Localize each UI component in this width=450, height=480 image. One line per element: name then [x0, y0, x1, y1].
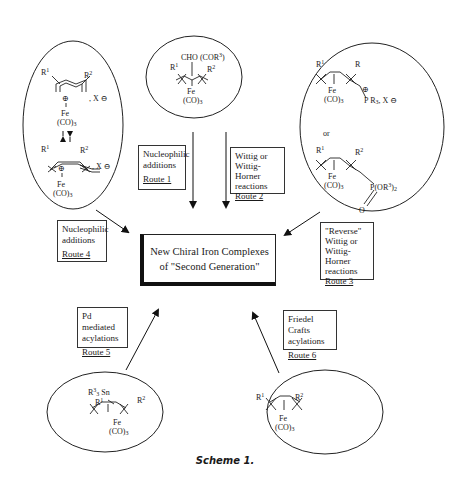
left-cation-charge-2: ⊕ [58, 164, 65, 173]
route-6-label: Route 6 [288, 350, 332, 361]
left-resonance-arrows [60, 131, 73, 142]
route-6-line-2: acylations [288, 336, 332, 347]
left-r2-label-2: R2 [80, 146, 88, 155]
route-4-label: Route 4 [62, 249, 102, 260]
right-fe-label-2: Fe [328, 172, 336, 181]
route-4-box: Nucleophilic additions Route 4 [57, 220, 107, 262]
route-5-box: Pd mediated acylations Route 5 [77, 307, 128, 348]
bottom-left-fe-label: Fe [113, 418, 121, 427]
route-5-line-2: acylations [82, 333, 123, 344]
right-r-label-1: R [355, 60, 360, 69]
left-co-label-2: (CO)3 [53, 189, 72, 198]
central-title-line-2: of "Second Generation" [144, 259, 275, 274]
left-r1-label-2: R1 [41, 145, 49, 154]
left-fe-label-2: Fe [57, 180, 65, 189]
route-3-box: "Reverse" Wittig or Wittig-Horner reacti… [320, 222, 374, 280]
left-co-label-1: (CO)3 [57, 118, 76, 127]
route-1-label: Route 1 [143, 174, 181, 185]
route-3-line-1: "Reverse" [325, 226, 369, 236]
top-co-label: (CO)3 [183, 96, 202, 105]
route-6-line-1: Friedel Crafts [288, 314, 332, 336]
top-reagent-ellipse [146, 36, 242, 118]
arrow-route-5 [126, 310, 158, 370]
left-fe-label-1: Fe [61, 109, 69, 118]
top-r1-label: R1 [170, 63, 178, 72]
route-1-line-2: additions [143, 160, 181, 171]
route-3-line-3: Wittig-Horner [325, 246, 369, 266]
arrow-route-3 [285, 212, 320, 235]
right-oxygen-label: O [359, 206, 365, 215]
top-substituent-label: CHO (COR3) [181, 53, 225, 62]
top-fe-label: Fe [187, 87, 195, 96]
right-co-label-1: (CO)3 [324, 95, 343, 104]
bottom-right-r2-label: R2 [295, 393, 303, 402]
left-r1-label-1: R1 [41, 68, 49, 77]
left-counterion-1: , X ⊖ [89, 94, 107, 103]
bottom-right-fe-label: Fe [279, 414, 287, 423]
route-6-box: Friedel Crafts acylations Route 6 [283, 310, 337, 350]
right-r1-label-2: R1 [316, 146, 324, 155]
route-3-line-4: reactions [325, 266, 369, 276]
route-3-line-2: Wittig or [325, 236, 369, 246]
route-2-line-3: reactions [235, 181, 280, 191]
arrow-route-6 [253, 313, 279, 373]
route-4-line-2: additions [62, 235, 102, 246]
right-or-label: or [323, 129, 330, 138]
right-phosphonium-charge: ⊕ [362, 85, 369, 94]
right-r1-label-1: R1 [316, 60, 324, 69]
route-5-label: Route 5 [82, 347, 123, 358]
bottom-left-r2-label: R2 [137, 396, 145, 405]
route-2-line-2: Wittig-Horner [235, 161, 280, 181]
route-1-line-1: Nucleophilic [143, 149, 181, 160]
left-r2-label-1: R2 [84, 71, 92, 80]
central-product-box: New Chiral Iron Complexes of "Second Gen… [140, 234, 276, 286]
bottom-left-r1-label: R1 [95, 398, 103, 407]
central-title-line-1: New Chiral Iron Complexes [144, 244, 275, 259]
route-1-box: Nucleophilic additions Route 1 [138, 145, 186, 190]
right-r2-label-2: R2 [355, 148, 363, 157]
bottom-right-co-label: (CO)3 [275, 423, 294, 432]
right-phosphonium-label: P R3, X ⊖ [364, 96, 397, 105]
right-phosphonate-label: P(OR3)2 [370, 183, 397, 192]
left-cation-skeleton-1 [52, 76, 90, 107]
route-3-label: Route 3 [325, 276, 369, 286]
route-2-label: Route 2 [235, 191, 280, 201]
top-diene-skeleton [176, 62, 208, 86]
route-5-line-1: Pd mediated [82, 311, 123, 333]
top-r2-label: R2 [207, 65, 215, 74]
right-fe-label-1: Fe [328, 86, 336, 95]
bottom-right-reagent-ellipse [267, 370, 383, 454]
route-2-box: Wittig or Wittig-Horner reactions Route … [230, 147, 285, 194]
route-4-line-1: Nucleophilic [62, 224, 102, 235]
route-2-line-1: Wittig or [235, 151, 280, 161]
bottom-left-reagent-ellipse [47, 372, 163, 452]
bottom-left-co-label: (CO)3 [109, 427, 128, 436]
left-counterion-2: , X ⊖ [92, 162, 110, 171]
bottom-left-tin-label: R33 Sn [88, 388, 110, 397]
scheme-caption: Scheme 1. [0, 455, 450, 466]
bottom-right-r1-label: R1 [256, 393, 264, 402]
right-co-label-2: (CO)3 [324, 181, 343, 190]
left-cation-charge-1: ⊕ [62, 94, 69, 103]
